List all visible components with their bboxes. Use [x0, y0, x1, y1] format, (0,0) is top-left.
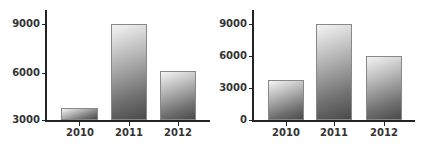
right-xlabel-2010: 2010 [266, 128, 306, 138]
right-y-axis [252, 10, 254, 122]
right-ytick-0 [249, 120, 253, 121]
right-bar-chart: 9000 6000 3000 0 2010 2011 2012 [0, 0, 429, 148]
right-ylabel-0: 0 [211, 115, 247, 125]
right-ylabel-3000: 3000 [211, 83, 247, 93]
right-xtick-2012 [384, 122, 385, 126]
right-bar-2012 [366, 56, 402, 120]
right-bar-2011 [316, 24, 352, 120]
right-ytick-9000 [249, 24, 253, 25]
right-xtick-2011 [334, 122, 335, 126]
right-ytick-3000 [249, 88, 253, 89]
right-xlabel-2012: 2012 [364, 128, 404, 138]
right-bar-2010 [268, 80, 304, 120]
right-ylabel-6000: 6000 [211, 51, 247, 61]
right-ylabel-9000: 9000 [211, 19, 247, 29]
right-xtick-2010 [286, 122, 287, 126]
right-ytick-6000 [249, 56, 253, 57]
right-xlabel-2011: 2011 [314, 128, 354, 138]
